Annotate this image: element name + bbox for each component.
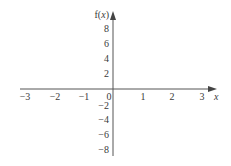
y-tick-label: −8 — [98, 144, 109, 155]
y-tick-label: 2 — [104, 68, 109, 79]
x-axis-title: x — [213, 91, 219, 102]
coordinate-plane: f(x) x −3 −2 −1 0 1 2 3 8 6 4 2 −2 −4 −6… — [0, 0, 231, 166]
x-tick-label: 3 — [200, 91, 205, 102]
y-tick-label: −2 — [98, 100, 109, 111]
y-axis-arrow-icon — [110, 11, 116, 20]
x-tick-label: −3 — [20, 91, 31, 102]
y-tick-label: 8 — [104, 23, 109, 34]
x-tick-label: −1 — [79, 91, 90, 102]
x-tick-label: −2 — [50, 91, 61, 102]
y-tick-label: 6 — [104, 38, 109, 49]
y-tick-label: −6 — [98, 129, 109, 140]
x-tick-label: 2 — [170, 91, 175, 102]
y-tick-label: −4 — [98, 114, 109, 125]
y-tick-label: 4 — [104, 53, 109, 64]
x-tick-label: 1 — [141, 91, 146, 102]
y-axis-title: f(x) — [95, 9, 109, 21]
x-tick-labels: −3 −2 −1 0 1 2 3 — [20, 91, 205, 102]
